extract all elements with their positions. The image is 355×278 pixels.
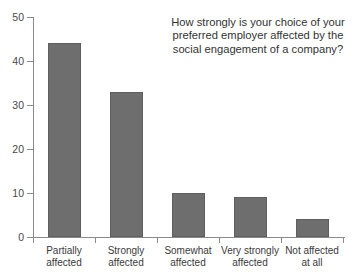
y-tick-label: 40 [12,56,24,67]
y-tick-mark [27,105,33,106]
bar [110,92,143,237]
y-tick-mark [27,17,33,18]
x-tick-mark [157,238,158,243]
y-tick-mark [27,61,33,62]
y-tick-mark [27,193,33,194]
x-tick-mark [281,238,282,243]
y-tick-label: 30 [12,100,24,111]
y-tick-label: 20 [12,144,24,155]
x-tick-mark [343,238,344,243]
x-tick-mark [33,238,34,243]
question-annotation: How strongly is your choice of your pref… [168,16,348,56]
y-tick-mark [27,149,33,150]
y-tick-label: 10 [12,188,24,199]
bar [296,219,329,237]
bar [172,193,205,237]
x-axis-label: Partially affected [33,245,95,268]
x-axis-label: Somewhat affected [157,245,219,268]
x-axis-label: Very strongly affected [219,245,281,268]
bar [234,197,267,237]
bar-chart: 01020304050 Partially affectedStrongly a… [0,0,355,278]
y-tick-label: 50 [12,12,24,23]
bar [48,43,81,237]
x-tick-mark [95,238,96,243]
x-axis-label: Not affected at all [281,245,343,268]
x-tick-mark [219,238,220,243]
y-tick-label: 0 [18,232,24,243]
x-axis-line [33,237,345,238]
x-axis-label: Strongly affected [95,245,157,268]
